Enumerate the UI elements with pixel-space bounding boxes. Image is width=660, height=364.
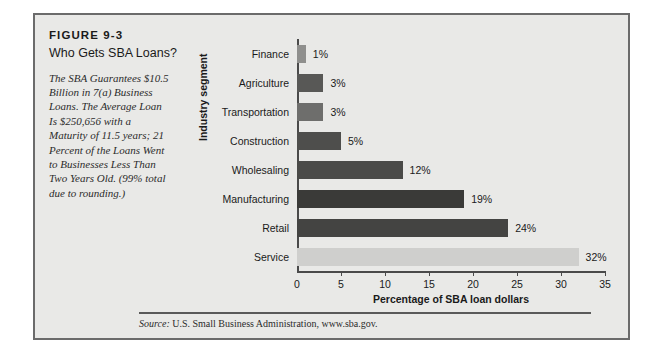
x-axis-tick	[517, 271, 518, 276]
bar-row: Service32%	[297, 248, 605, 266]
bar	[297, 248, 579, 266]
page-canvas: FIGURE 9-3 Who Gets SBA Loans? The SBA G…	[0, 0, 660, 364]
x-axis-tick-label: 5	[338, 278, 344, 290]
figure-panel: FIGURE 9-3 Who Gets SBA Loans? The SBA G…	[33, 13, 630, 340]
x-axis-tick-label: 25	[511, 278, 523, 290]
bar-row: Transportation3%	[297, 103, 605, 121]
y-axis-label: Industry segment	[197, 53, 209, 141]
bar-value-label: 12%	[410, 164, 431, 176]
figure-text-column: FIGURE 9-3 Who Gets SBA Loans? The SBA G…	[49, 27, 177, 200]
bar-category-label: Finance	[252, 48, 289, 60]
bar-row: Finance1%	[297, 45, 605, 63]
source-note: Source: U.S. Small Business Administrati…	[139, 318, 378, 329]
bar-value-label: 24%	[515, 222, 536, 234]
source-divider	[139, 312, 591, 314]
figure-caption: The SBA Guarantees $10.5 Billion in 7(a)…	[49, 71, 171, 201]
bar-category-label: Construction	[230, 135, 289, 147]
bar	[297, 161, 403, 179]
x-axis-tick-label: 30	[555, 278, 567, 290]
bar-category-label: Agriculture	[239, 77, 289, 89]
bar-value-label: 5%	[348, 135, 363, 147]
bar	[297, 103, 323, 121]
x-axis-tick	[605, 271, 606, 276]
x-axis-line	[297, 271, 605, 273]
bar	[297, 190, 464, 208]
figure-title: Who Gets SBA Loans?	[49, 45, 177, 63]
x-axis-tick	[385, 271, 386, 276]
bar-category-label: Service	[254, 251, 289, 263]
bar	[297, 45, 306, 63]
bar-category-label: Transportation	[222, 106, 289, 118]
bar	[297, 74, 323, 92]
x-axis-tick	[341, 271, 342, 276]
x-axis-label: Percentage of SBA loan dollars	[297, 293, 605, 305]
bar-category-label: Manufacturing	[222, 193, 289, 205]
bar-category-label: Wholesaling	[232, 164, 289, 176]
source-lead: Source:	[139, 318, 170, 329]
bar	[297, 132, 341, 150]
x-axis-tick-label: 20	[467, 278, 479, 290]
bar-row: Retail24%	[297, 219, 605, 237]
x-axis-tick	[473, 271, 474, 276]
x-axis-tick	[429, 271, 430, 276]
bar-value-label: 19%	[471, 193, 492, 205]
x-axis-tick-label: 35	[599, 278, 611, 290]
bar-row: Construction5%	[297, 132, 605, 150]
bar-value-label: 32%	[586, 251, 607, 263]
x-axis-tick-label: 10	[379, 278, 391, 290]
figure-number: FIGURE 9-3	[49, 27, 177, 44]
bar-value-label: 1%	[313, 48, 328, 60]
plot-area: Percentage of SBA loan dollars Finance1%…	[297, 39, 605, 271]
x-axis-tick-label: 15	[423, 278, 435, 290]
x-axis-tick-label: 0	[294, 278, 300, 290]
source-body: U.S. Small Business Administration, www.…	[172, 318, 377, 329]
x-axis-tick	[561, 271, 562, 276]
chart: Industry segment Percentage of SBA loan …	[175, 33, 615, 301]
bar-value-label: 3%	[330, 106, 345, 118]
bar-row: Wholesaling12%	[297, 161, 605, 179]
bar	[297, 219, 508, 237]
bar-row: Manufacturing19%	[297, 190, 605, 208]
bar-category-label: Retail	[262, 222, 289, 234]
bar-row: Agriculture3%	[297, 74, 605, 92]
bar-value-label: 3%	[330, 77, 345, 89]
